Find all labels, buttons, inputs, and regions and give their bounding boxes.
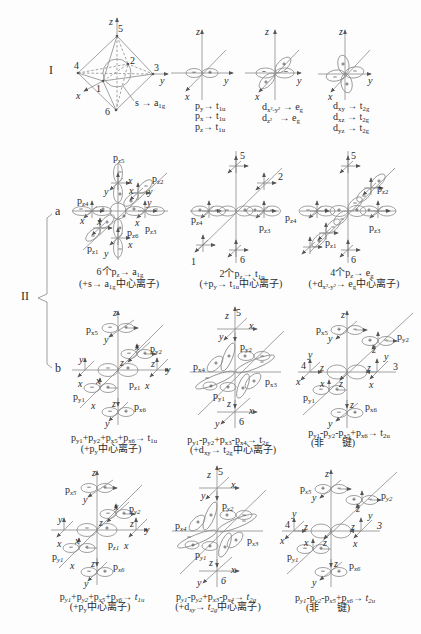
- position-label-4: 4: [301, 360, 306, 371]
- label-px5: px5: [65, 484, 76, 495]
- label-px5: px5: [86, 324, 98, 335]
- local-axis-label: x: [145, 380, 149, 391]
- symmetry-line-dx2y2: dx²-y² → eg: [262, 101, 303, 112]
- local-axis-label: x: [304, 537, 308, 548]
- local-axis-label: z: [92, 467, 96, 478]
- label-pz4: pz4: [191, 214, 202, 225]
- p-orbital-diagram: [171, 30, 233, 100]
- position-label-1: 1: [191, 256, 196, 267]
- caption-line-2: (+s→ a1g中心离子): [79, 278, 159, 289]
- caption-line-1: 4个pz→ eg: [330, 267, 373, 278]
- orbital-lobe: [204, 353, 225, 374]
- local-axis-label: y: [166, 364, 170, 375]
- local-axis-label: x: [135, 217, 139, 228]
- axis-label-y: y: [160, 75, 164, 86]
- label-pz2: pz2: [152, 173, 163, 184]
- label-pz2: pz2: [377, 183, 388, 194]
- local-axis-label: y: [384, 351, 388, 362]
- position-label-6: 6: [351, 254, 356, 265]
- position-label-6: 6: [240, 254, 245, 265]
- local-axis-label: z: [99, 517, 103, 528]
- label-py1: py1: [287, 551, 298, 562]
- local-axis-label: z: [151, 358, 155, 369]
- caption-line-2-nonbonding: (非 键): [311, 437, 355, 448]
- position-label-3: 3: [377, 520, 382, 531]
- d-eg-orbital-diagram: [245, 30, 301, 100]
- label-pz4: pz4: [285, 212, 296, 223]
- vertex-label-3: 3: [154, 62, 159, 73]
- vertex-label-6: 6: [105, 106, 110, 117]
- label-px5: px5: [316, 324, 328, 335]
- symmetry-line-dz2: dz² → eg: [262, 112, 300, 123]
- local-axis-label: z: [112, 398, 116, 409]
- local-axis-label: x: [296, 376, 300, 387]
- position-label-5: 5: [240, 150, 245, 161]
- figure-artwork: [0, 0, 421, 634]
- local-axis-label: y: [84, 578, 88, 589]
- label-py1: py1: [303, 392, 315, 403]
- position-label-5: 5: [351, 150, 356, 161]
- local-axis-label: x: [114, 501, 118, 512]
- local-axis-label: z: [339, 378, 343, 389]
- vertex-label-1: 1: [96, 83, 101, 94]
- local-axis-label: z: [320, 362, 324, 373]
- local-axis-label: x: [249, 405, 253, 416]
- label-pz1: pz1: [129, 379, 140, 390]
- label-px4: px4: [193, 361, 205, 372]
- label-pz5: pz5: [113, 152, 124, 163]
- label-pz3: pz3: [259, 222, 270, 233]
- axis-label-x: x: [185, 91, 189, 102]
- local-axis-label: y: [219, 331, 223, 342]
- label-py2: py2: [222, 500, 233, 511]
- label-py2: py2: [240, 341, 252, 352]
- axis-label-x: x: [76, 90, 80, 101]
- local-axis-label: y: [215, 418, 219, 429]
- label-py2: py2: [129, 503, 140, 514]
- local-axis-label: z: [372, 344, 376, 355]
- row-marker-a: a: [55, 206, 60, 217]
- local-axis-label: x: [70, 560, 74, 571]
- local-axis-label: y: [292, 508, 296, 519]
- local-axis-label: z: [350, 399, 354, 410]
- local-axis-label: z: [225, 310, 229, 321]
- label-pz3: pz3: [145, 223, 156, 234]
- local-axis-label: z: [367, 362, 371, 373]
- caption-line-2: (+py中心离子): [81, 443, 142, 454]
- caption-line-2: (+py中心离子): [70, 601, 131, 612]
- orbital-lobe: [234, 372, 252, 399]
- figure-page: I II a b z 5 4 3 2 1 6 x y s → a1g z y x…: [0, 0, 421, 634]
- local-axis-label: y: [197, 577, 201, 588]
- position-label-6: 6: [239, 416, 244, 427]
- label-py1: py1: [195, 549, 206, 560]
- local-axis-label: x: [280, 535, 284, 546]
- label-px6: px6: [349, 560, 360, 571]
- local-axis-label: x: [78, 378, 82, 389]
- label-py2: py2: [381, 490, 392, 501]
- label-px6: px6: [365, 401, 377, 412]
- local-axis-label: z: [91, 558, 95, 569]
- local-axis-label: z: [120, 357, 124, 368]
- label-pz1: pz1: [325, 237, 336, 248]
- symmetry-line-pz: pz→ t1u: [195, 121, 225, 132]
- local-axis-label: y: [148, 186, 152, 197]
- local-axis-label: z: [341, 309, 345, 320]
- local-axis-label: x: [129, 185, 133, 196]
- axis-label-z: z: [265, 26, 269, 37]
- position-label-6: 6: [221, 575, 226, 586]
- caption-line-2: (+dx²-y²→ eg中心离子): [309, 278, 400, 289]
- local-axis-label: z: [325, 468, 329, 479]
- local-axis-label: x: [80, 215, 84, 226]
- axis-label-y: y: [224, 75, 228, 86]
- row-marker-I: I: [49, 65, 53, 76]
- local-axis-label: x: [91, 400, 95, 411]
- local-axis-label: x: [57, 538, 61, 549]
- vertex-label-4: 4: [74, 60, 79, 71]
- label-px3: px3: [247, 535, 258, 546]
- local-axis-label: z: [207, 469, 211, 480]
- local-axis-label: y: [104, 248, 108, 259]
- local-axis-label: x: [124, 540, 128, 551]
- vertex-label-2: 2: [130, 55, 135, 66]
- local-axis-label: y: [58, 514, 62, 525]
- label-py2: py2: [150, 343, 162, 354]
- label-px3: px3: [265, 376, 277, 387]
